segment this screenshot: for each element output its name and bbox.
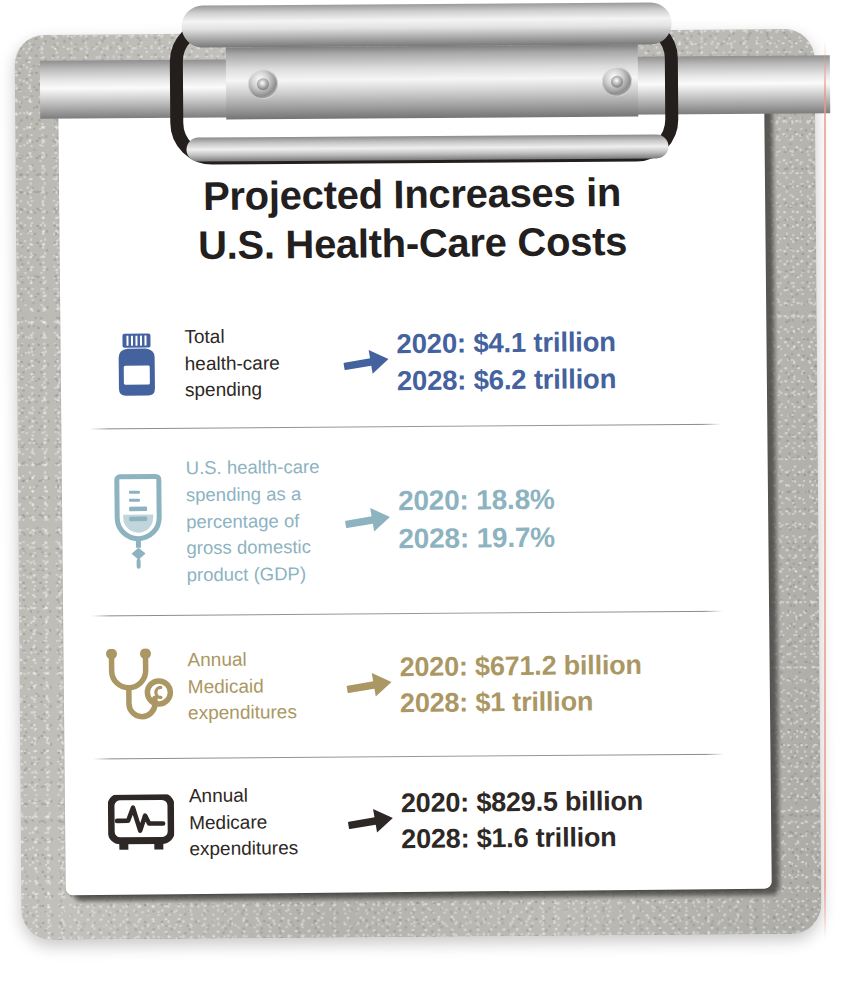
arrow-right-icon	[338, 502, 398, 539]
clip-roller-top	[181, 2, 671, 47]
arrow-right-icon	[337, 344, 397, 381]
row-values: 2020: $829.5 billion 2028: $1.6 trillion	[401, 781, 746, 857]
row-label-line: percentage of	[186, 507, 338, 535]
infographic-stage: Projected Increases in U.S. Health-Care …	[0, 0, 868, 990]
row-label-line: health-care	[185, 349, 337, 377]
scan-artifact-line	[824, 40, 826, 940]
iv-bag-icon	[100, 470, 177, 575]
row-values: 2020: $671.2 billion 2028: $1 trillion	[399, 645, 744, 721]
medicine-bottle-icon	[98, 331, 175, 398]
arrow-right-icon	[341, 803, 401, 840]
table-row: Annual Medicare expenditures 2	[65, 754, 772, 889]
row-values: 2020: $4.1 trillion 2028: $6.2 trillion	[396, 322, 741, 400]
row-label: U.S. health-care spending as a percentag…	[186, 454, 339, 590]
row-label-line: Total	[184, 322, 336, 350]
row-label-line: U.S. health-care	[186, 454, 338, 482]
row-values: 2020: 18.8% 2028: 19.7%	[398, 479, 743, 558]
heart-monitor-icon	[103, 794, 180, 853]
row-label: Annual Medicare expenditures	[189, 781, 342, 863]
row-label-line: expenditures	[188, 699, 340, 727]
arrow-right-icon	[340, 667, 400, 704]
value-2020: 2020: $4.1 trillion	[396, 322, 740, 362]
table-row: Annual Medicaid expenditures 2	[63, 611, 770, 760]
clipboard-clip[interactable]	[159, 0, 700, 167]
row-label-line: gross domestic	[186, 534, 338, 562]
title-line-1: Projected Increases in	[59, 167, 765, 223]
value-2028: 2028: $1 trillion	[400, 682, 744, 722]
row-label: Total health-care spending	[184, 322, 337, 404]
value-2028: 2028: $6.2 trillion	[397, 359, 741, 399]
clip-rivet-right	[602, 67, 632, 97]
value-2020: 2020: 18.8%	[398, 479, 742, 520]
clip-roller-bottom	[186, 134, 668, 161]
data-rows: Total health-care spending 202	[60, 295, 772, 889]
page-title: Projected Increases in U.S. Health-Care …	[59, 167, 766, 271]
row-label-line: spending	[185, 376, 337, 404]
row-label-line: product (GDP)	[187, 561, 339, 589]
clip-rivet-left	[248, 69, 278, 99]
row-label-line: spending as a	[186, 481, 338, 509]
stethoscope-icon	[101, 648, 178, 727]
clipboard-paper: Projected Increases in U.S. Health-Care …	[58, 99, 772, 896]
value-2028: 2028: $1.6 trillion	[401, 818, 745, 858]
table-row: Total health-care spending 202	[60, 295, 767, 430]
row-label: Annual Medicaid expenditures	[187, 645, 340, 727]
table-row: U.S. health-care spending as a percentag…	[61, 424, 769, 617]
row-label-line: Medicare	[189, 808, 341, 836]
value-2028: 2028: 19.7%	[398, 517, 742, 558]
title-line-2: U.S. Health-Care Costs	[59, 215, 765, 271]
value-2020: 2020: $829.5 billion	[401, 781, 745, 821]
value-2020: 2020: $671.2 billion	[399, 645, 743, 685]
row-label-line: Annual	[189, 781, 341, 809]
row-label-line: expenditures	[189, 835, 341, 863]
row-label-line: Medicaid	[188, 672, 340, 700]
row-label-line: Annual	[187, 645, 339, 673]
